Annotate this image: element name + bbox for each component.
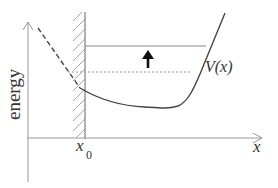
potential-curve — [80, 13, 225, 108]
potential-well-diagram: energy x x 0 V(x) — [0, 0, 278, 188]
up-arrow-icon — [142, 50, 154, 68]
x-axis-label: x — [252, 137, 261, 156]
wall-position-subscript: 0 — [86, 148, 92, 162]
wall-position-label: x — [75, 136, 84, 155]
y-axis — [23, 22, 33, 182]
potential-label: V(x) — [205, 58, 233, 76]
x-axis — [27, 133, 262, 143]
dashed-potential-curve — [38, 28, 80, 88]
y-axis-label: energy — [3, 68, 24, 120]
